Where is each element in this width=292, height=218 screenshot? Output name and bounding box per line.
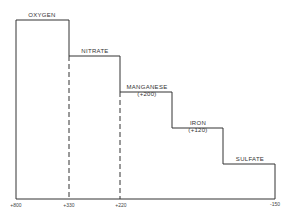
label-nitrate: NITRATE [81, 48, 108, 55]
tick-330: +330 [63, 202, 74, 208]
tick-800: +800 [10, 202, 21, 208]
staircase-diagram [0, 0, 292, 218]
label-manganese: MANGANESE(+200) [126, 84, 167, 98]
label-sulfate: SULFATE [236, 156, 264, 163]
tick-neg150: -150 [270, 201, 280, 207]
staircase-outline [16, 20, 275, 199]
label-iron: IRON(+120) [188, 120, 207, 134]
tick-220: +220 [115, 202, 126, 208]
label-oxygen: OXYGEN [28, 12, 55, 19]
